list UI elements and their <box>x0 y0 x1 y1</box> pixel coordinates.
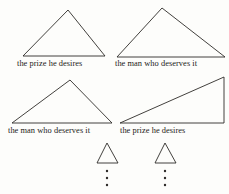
vertical-ellipsis-right <box>164 170 166 186</box>
ellipsis-dot <box>106 177 108 179</box>
triangle-row1-left <box>23 10 105 56</box>
vertical-ellipsis-left <box>106 170 108 186</box>
figure-container: the prize he desires the man who deserve… <box>0 0 229 194</box>
caption-row2-left: the man who deserves it <box>8 126 90 136</box>
triangle-small-left <box>97 143 118 163</box>
caption-row1-left: the prize he desires <box>17 59 82 69</box>
ellipsis-dot <box>164 177 166 179</box>
ellipsis-dot <box>164 184 166 186</box>
ellipsis-dot <box>106 170 108 172</box>
triangle-row2-left <box>12 80 112 123</box>
caption-row1-right: the man who deserves it <box>115 59 197 69</box>
triangle-row2-right <box>120 77 224 123</box>
triangle-diagram-svg <box>0 0 229 194</box>
ellipsis-dot <box>164 170 166 172</box>
caption-row2-right: the prize he desires <box>120 126 185 136</box>
ellipsis-dot <box>106 184 108 186</box>
triangle-small-right <box>155 143 176 163</box>
triangle-row1-right <box>117 8 225 57</box>
